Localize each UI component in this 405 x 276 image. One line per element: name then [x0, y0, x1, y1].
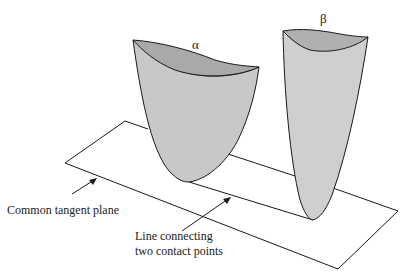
alpha-label: α [192, 37, 199, 52]
alpha-surface [133, 40, 259, 182]
line-label-2: two contact points [135, 244, 223, 258]
diagram-canvas: α β Common tangent plane Line connecting… [0, 0, 405, 276]
beta-surface [283, 30, 368, 220]
plane-arrow [72, 178, 97, 194]
plane-label: Common tangent plane [7, 203, 119, 217]
line-arrow [182, 197, 231, 231]
line-label-1: Line connecting [135, 229, 213, 243]
contact-line [189, 182, 313, 220]
beta-label: β [320, 11, 327, 26]
